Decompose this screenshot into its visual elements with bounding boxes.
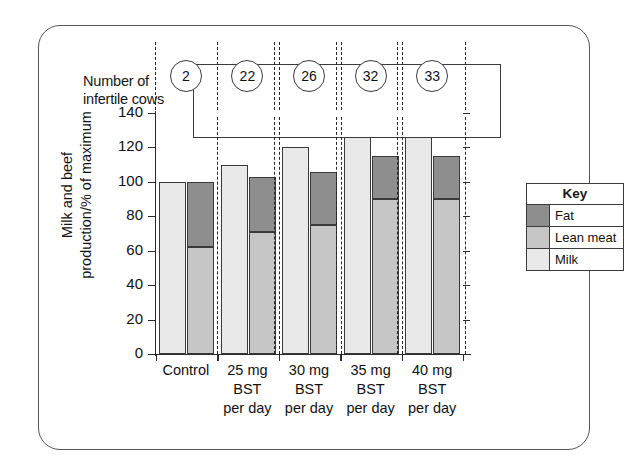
y-tick-right: [463, 182, 470, 183]
legend-item-lean-meat: Lean meat: [527, 227, 623, 249]
group-separator-dashed-line: [341, 42, 342, 110]
y-tick: [148, 285, 155, 286]
bar-lean-meat: [187, 247, 214, 354]
figure-border: Number of infertile cows Milk and beef p…: [38, 25, 590, 450]
y-tick-label: 80: [97, 206, 143, 223]
group-separator-dashed-line: [155, 117, 156, 354]
y-tick: [148, 182, 155, 183]
group-separator-dashed-line: [155, 42, 156, 110]
x-axis-group-label-line: BST: [393, 380, 471, 399]
x-tick: [218, 354, 219, 361]
y-tick-label: 60: [97, 241, 143, 258]
legend-label-fat: Fat: [550, 205, 574, 226]
y-tick-label: 120: [97, 137, 143, 154]
x-axis-group-label: 40 mgBSTper day: [393, 361, 471, 418]
group-separator-dashed-line: [217, 42, 218, 110]
bar-milk: [282, 147, 309, 354]
x-axis: [149, 354, 471, 355]
legend-title: Key: [527, 184, 623, 205]
legend-swatch-milk: [527, 249, 550, 270]
y-axis-title-line1: Milk and beef: [58, 45, 77, 345]
y-tick-right: [463, 216, 470, 217]
y-tick: [148, 251, 155, 252]
group-separator-dashed-line: [217, 117, 218, 354]
y-tick-label: 140: [97, 103, 143, 120]
legend-item-fat: Fat: [527, 205, 623, 227]
group-separator-dashed-line: [465, 42, 466, 110]
bar-lean-meat: [433, 199, 460, 354]
infertile-cows-count: 32: [355, 60, 387, 92]
y-tick-label: 20: [97, 310, 143, 327]
x-tick: [279, 354, 280, 361]
bar-milk: [221, 165, 248, 354]
bar-fat: [187, 182, 214, 247]
legend-label-milk: Milk: [550, 249, 578, 270]
x-tick: [341, 354, 342, 361]
infertile-cows-count: 2: [170, 60, 202, 92]
group-separator-dashed-line: [341, 117, 342, 354]
group-separator-dashed-line: [465, 117, 466, 354]
y-tick-right: [463, 251, 470, 252]
y-tick-label: 0: [97, 344, 143, 361]
group-separator-dashed-line: [336, 42, 337, 110]
x-tick: [402, 354, 403, 361]
y-tick: [148, 320, 155, 321]
legend-item-milk: Milk: [527, 249, 623, 270]
infertile-cows-count: 33: [416, 60, 448, 92]
y-tick: [148, 147, 155, 148]
bar-fat: [372, 156, 399, 199]
y-tick-right: [463, 320, 470, 321]
bar-fat: [433, 156, 460, 199]
x-tick: [463, 354, 464, 361]
bar-lean-meat: [372, 199, 399, 354]
legend-swatch-fat: [527, 205, 550, 226]
y-tick: [148, 354, 155, 355]
y-tick-right: [463, 285, 470, 286]
bar-milk: [159, 182, 186, 354]
bar-fat: [310, 172, 337, 225]
bar-lean-meat: [249, 232, 276, 354]
group-separator-dashed-line: [274, 117, 275, 354]
bar-lean-meat: [310, 225, 337, 354]
legend-swatch-lean-meat: [527, 227, 550, 248]
bar-fat: [249, 177, 276, 232]
y-tick-right: [463, 147, 470, 148]
group-separator-dashed-line: [274, 42, 275, 110]
bar-milk: [344, 137, 371, 354]
group-separator-dashed-line: [402, 117, 403, 354]
y-tick: [148, 216, 155, 217]
group-separator-dashed-line: [397, 117, 398, 354]
x-tick: [156, 354, 157, 361]
group-separator-dashed-line: [336, 117, 337, 354]
x-axis-group-label-line: 40 mg: [393, 361, 471, 380]
infertile-cows-count: 26: [293, 60, 325, 92]
group-separator-dashed-line: [279, 117, 280, 354]
y-tick-label: 100: [97, 172, 143, 189]
y-tick: [148, 113, 155, 114]
bar-milk: [405, 137, 432, 354]
x-axis-group-label-line: per day: [393, 399, 471, 418]
y-tick-right: [463, 113, 470, 114]
y-tick-label: 40: [97, 275, 143, 292]
legend-label-lean-meat: Lean meat: [550, 227, 616, 248]
group-separator-dashed-line: [279, 42, 280, 110]
group-separator-dashed-line: [397, 42, 398, 110]
chart-legend: Key Fat Lean meat Milk: [526, 183, 624, 271]
group-separator-dashed-line: [402, 42, 403, 110]
